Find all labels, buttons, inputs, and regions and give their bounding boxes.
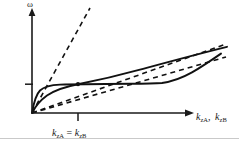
x-axis-sub-b: zB bbox=[220, 116, 227, 123]
crossing-point-dot bbox=[76, 82, 80, 86]
x-axis-sub-a: zA bbox=[200, 116, 208, 123]
x-axis-separator: , bbox=[208, 111, 213, 122]
crossing-sub-a: zA bbox=[56, 132, 64, 139]
y-axis-label-omega: ω bbox=[27, 0, 33, 9]
crossing-point-label: kzA = kzB bbox=[52, 128, 86, 138]
crossing-sub-b: zB bbox=[79, 132, 86, 139]
dispersion-figure: ω kzA, kzB kzA = kzB bbox=[0, 0, 239, 149]
x-axis-k-b: k bbox=[215, 111, 219, 122]
dispersion-plot bbox=[0, 0, 239, 149]
crossing-equals: = bbox=[64, 127, 75, 138]
y-axis-arrow-icon bbox=[29, 8, 36, 16]
steep-dashed-asymptote bbox=[32, 8, 90, 113]
x-axis-arrow-icon bbox=[185, 110, 194, 117]
x-axis-label-kz: kzA, kzB bbox=[196, 112, 227, 122]
